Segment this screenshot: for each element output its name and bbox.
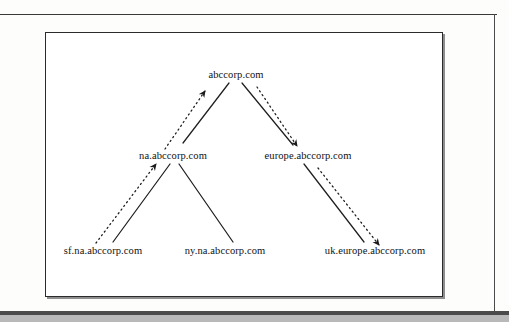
scanned-page: abccorp.com na.abccorp.com europe.abccor… (0, 0, 509, 322)
node-label-uk: uk.europe.abccorp.com (325, 245, 425, 256)
figure-frame: abccorp.com na.abccorp.com europe.abccor… (45, 32, 443, 297)
edge-root-na (183, 83, 229, 143)
node-label-na: na.abccorp.com (139, 150, 207, 161)
node-label-europe: europe.abccorp.com (265, 150, 352, 161)
page-top-rule (0, 14, 497, 15)
edge-na-sf (113, 164, 170, 242)
edge-europe-uk (304, 164, 364, 242)
edge-root-europe (242, 83, 293, 145)
page-bottom-strip (0, 315, 509, 322)
trust-arrow-europe-to-uk (318, 168, 379, 245)
node-label-root: abccorp.com (208, 69, 263, 80)
page-right-edge (494, 14, 495, 312)
node-label-ny: ny.na.abccorp.com (185, 245, 266, 256)
trust-arrow-root-to-europe (257, 87, 297, 146)
edge-na-ny (179, 164, 233, 242)
trust-arrow-sf-to-na (96, 164, 156, 243)
node-label-sf: sf.na.abccorp.com (64, 245, 142, 256)
